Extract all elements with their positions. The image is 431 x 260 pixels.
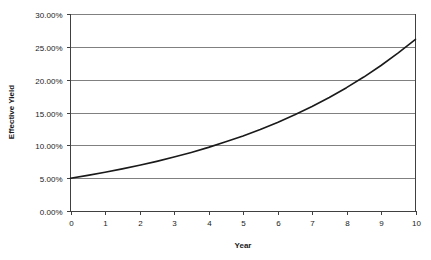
x-tick-label: 0 xyxy=(69,219,74,228)
x-tick-label: 8 xyxy=(345,219,350,228)
chart-container: 0.00%5.00%10.00%15.00%20.00%25.00%30.00%… xyxy=(0,0,431,260)
x-tick-label: 5 xyxy=(241,219,246,228)
x-tick-label: 3 xyxy=(172,219,177,228)
y-tick-label: 20.00% xyxy=(35,77,62,86)
y-tick-label: 10.00% xyxy=(35,142,62,151)
y-tick-label: 25.00% xyxy=(35,44,62,53)
x-tick-label: 10 xyxy=(412,219,421,228)
x-tick-label: 6 xyxy=(276,219,281,228)
y-tick-label: 15.00% xyxy=(35,110,62,119)
chart-background xyxy=(0,0,431,260)
x-tick-label: 7 xyxy=(310,219,315,228)
x-tick-label: 2 xyxy=(138,219,143,228)
effective-yield-line-chart: 0.00%5.00%10.00%15.00%20.00%25.00%30.00%… xyxy=(0,0,431,260)
x-axis-title: Year xyxy=(235,241,252,250)
y-tick-label: 0.00% xyxy=(40,208,63,217)
x-tick-label: 9 xyxy=(379,219,384,228)
y-tick-label: 5.00% xyxy=(40,175,63,184)
y-tick-label: 30.00% xyxy=(35,11,62,20)
x-tick-label: 1 xyxy=(103,219,108,228)
x-tick-label: 4 xyxy=(207,219,212,228)
y-axis-title: Effective Yield xyxy=(7,85,16,139)
